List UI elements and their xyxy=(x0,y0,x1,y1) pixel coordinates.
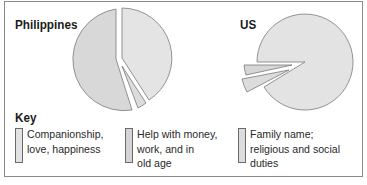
us-slice-companionship xyxy=(257,14,353,110)
legend-swatch xyxy=(125,128,133,163)
legend-item-help: Help with money, work, and in old age xyxy=(125,127,224,171)
legend-item-family: Family name; religious and social duties xyxy=(238,127,348,171)
us-pie xyxy=(242,14,353,110)
legend-label: Companionship, love, happiness xyxy=(27,127,103,156)
legend-title: Key xyxy=(15,110,36,125)
us-slice-help xyxy=(244,65,292,75)
legend-label: Help with money, work, and in old age xyxy=(137,127,217,171)
legend-swatch xyxy=(238,128,246,163)
legend-swatch xyxy=(15,128,23,163)
legend-label: Family name; religious and social duties xyxy=(250,127,340,171)
philippines-pie xyxy=(73,8,172,111)
legend-item-companionship: Companionship, love, happiness xyxy=(15,127,110,163)
